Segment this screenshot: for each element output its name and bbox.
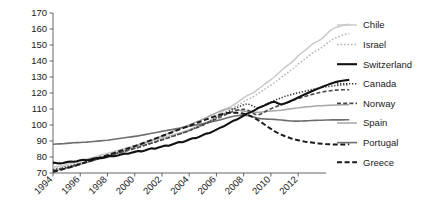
legend-label-switzerland: Switzerland: [363, 59, 412, 70]
legend-label-greece: Greece: [363, 157, 394, 168]
y-tick-label: 140: [31, 55, 47, 66]
x-tick-label: 2006: [195, 174, 218, 197]
y-tick-label: 130: [31, 71, 47, 82]
x-tick-label: 2010: [250, 174, 273, 197]
y-tick-label: 150: [31, 39, 47, 50]
y-axis-ticks: 708090100110120130140150160170: [31, 7, 53, 178]
y-tick-label: 170: [31, 7, 47, 18]
y-tick-label: 160: [31, 23, 47, 34]
legend-label-spain: Spain: [363, 117, 387, 128]
line-chart: 708090100110120130140150160170 199419961…: [0, 0, 433, 211]
legend-label-norway: Norway: [363, 98, 395, 109]
x-axis-ticks: 1994199619982000200220042006200820102012: [32, 173, 300, 196]
x-tick-label: 2002: [141, 174, 164, 197]
x-tick-label: 1996: [59, 174, 82, 197]
x-tick-label: 1998: [86, 174, 109, 197]
series-line-spain: [53, 105, 349, 171]
legend-label-canada: Canada: [363, 78, 397, 89]
chart-container: 708090100110120130140150160170 199419961…: [0, 0, 433, 211]
legend-label-chile: Chile: [363, 19, 385, 30]
y-tick-label: 110: [32, 103, 47, 114]
x-tick-label: 2000: [113, 174, 136, 197]
legend-label-israel: Israel: [363, 39, 386, 50]
x-tick-label: 2008: [222, 174, 245, 197]
y-tick-label: 80: [36, 151, 47, 162]
legend-label-portugal: Portugal: [363, 137, 398, 148]
x-tick-label: 2012: [277, 174, 300, 197]
x-tick-label: 2004: [168, 174, 191, 197]
x-tick-label: 1994: [32, 174, 55, 197]
chart-legend: ChileIsraelSwitzerlandCanadaNorwaySpainP…: [337, 19, 412, 167]
y-tick-label: 120: [31, 87, 47, 98]
series-lines: [53, 24, 349, 171]
y-tick-label: 90: [36, 135, 47, 146]
series-line-israel: [53, 33, 349, 168]
y-tick-label: 100: [31, 119, 47, 130]
